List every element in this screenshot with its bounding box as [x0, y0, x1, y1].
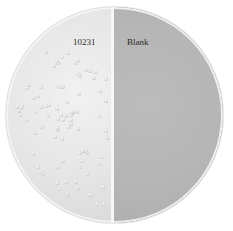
- blank-label: Blank: [127, 37, 149, 47]
- petri-dish: [6, 7, 223, 223]
- dish-rim: [6, 7, 223, 223]
- sample-label: 10231: [73, 37, 96, 47]
